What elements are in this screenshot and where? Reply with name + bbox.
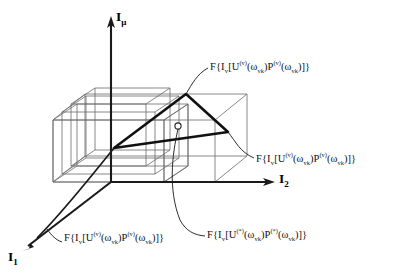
wireframe-boxes <box>53 88 247 182</box>
diagram-vector-graphics <box>0 0 395 275</box>
formula-label-bottom-left: F{Iv[U(v)(ωvk)P(v)(ωvk)]} <box>64 231 164 245</box>
box-middle <box>62 96 179 174</box>
axis-label-i1-sub: 1 <box>13 257 18 267</box>
point-marker <box>175 123 181 129</box>
coordinate-axes <box>28 22 268 246</box>
axis-label-i-mu: Iμ <box>116 10 126 27</box>
diagram-canvas: Iμ I2 I1 F{Iv[U(v)(ωvk)P(v)(ωvk)]} F{Iv[… <box>0 0 395 275</box>
leader-right <box>228 132 254 158</box>
axis-label-i-mu-sub: μ <box>121 17 126 27</box>
box-outer-large <box>53 94 247 182</box>
axis-label-i2-sub: 2 <box>284 179 289 189</box>
formula-label-top: F{Iv[U(v)(ωvk)P(v)(ωvk)]} <box>210 60 310 74</box>
triangle-outline <box>114 94 228 148</box>
axis-arrowheads <box>22 16 275 251</box>
formula-label-bottom-right: F{Iv[U(*)(ωvk)P(*)(ωvk)]} <box>207 228 307 242</box>
arrowhead-i1 <box>22 243 34 251</box>
bold-triangle-surface <box>114 94 228 148</box>
leader-bottom-left <box>47 229 62 242</box>
response-curve <box>37 148 114 238</box>
axis-label-i1: I1 <box>8 250 18 267</box>
leader-top <box>186 68 208 94</box>
formula-label-right: F{Iv[U(v)(ωvk)P(v)(ωvk)]} <box>256 152 356 166</box>
axis-label-i2: I2 <box>279 172 289 189</box>
